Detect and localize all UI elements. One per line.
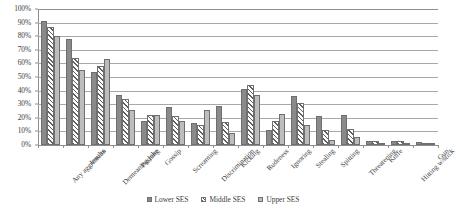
y-axis-tick-label: 90% xyxy=(18,19,31,26)
y-axis-tick-label: 10% xyxy=(18,128,31,135)
legend-label: Upper SES xyxy=(266,196,299,203)
bar-group xyxy=(391,9,411,145)
y-axis-tick-label: 40% xyxy=(18,87,31,94)
bar xyxy=(179,121,186,145)
y-axis-tick-label: 50% xyxy=(18,73,31,80)
bar xyxy=(129,110,136,145)
x-axis-category-label: Gossip xyxy=(163,148,182,167)
bar-group xyxy=(266,9,286,145)
bar xyxy=(154,115,161,145)
chart-legend: Lower SESMiddle SESUpper SES xyxy=(0,196,446,203)
bar-group xyxy=(191,9,211,145)
y-axis-tick-label: 70% xyxy=(18,46,31,53)
legend-item[interactable]: Middle SES xyxy=(201,196,245,203)
legend-swatch-icon xyxy=(201,197,206,202)
bar xyxy=(104,59,111,145)
x-axis-category-label: Rudeness xyxy=(266,148,291,173)
bar xyxy=(354,137,361,145)
bar-group xyxy=(116,9,136,145)
bar xyxy=(79,70,86,145)
legend-swatch-icon xyxy=(258,197,263,202)
y-axis-tick-label: 20% xyxy=(18,114,31,121)
x-axis-labels: Any aggressionInsultsDemeaning jokePushi… xyxy=(38,148,438,196)
bars-layer xyxy=(38,9,438,145)
bar xyxy=(229,133,236,145)
bar-group xyxy=(366,9,386,145)
bar-group xyxy=(216,9,236,145)
plot-area xyxy=(38,9,438,145)
bar xyxy=(54,36,61,145)
bar-group xyxy=(91,9,111,145)
bar xyxy=(254,95,261,145)
bar-group xyxy=(166,9,186,145)
legend-swatch-icon xyxy=(147,197,152,202)
legend-label: Lower SES xyxy=(155,196,189,203)
bar-group xyxy=(416,9,436,145)
y-axis-tick-label: 80% xyxy=(18,32,31,39)
legend-label: Middle SES xyxy=(209,196,245,203)
bar-group xyxy=(316,9,336,145)
bar-group xyxy=(241,9,261,145)
bar xyxy=(204,110,211,145)
y-axis-tick-label: 100% xyxy=(14,5,31,12)
bar xyxy=(279,114,286,145)
bar-group xyxy=(66,9,86,145)
bar-group xyxy=(41,9,61,145)
x-axis-category-label: Spitting xyxy=(339,148,360,169)
y-axis-tick-label: 60% xyxy=(18,60,31,67)
bar-group xyxy=(291,9,311,145)
bar xyxy=(304,125,311,145)
y-axis-tick-label: 30% xyxy=(18,100,31,107)
x-axis-category-label: Screaming xyxy=(192,148,219,175)
x-axis-category-label: Pushing xyxy=(139,148,160,169)
y-axis-labels: 0%10%20%30%40%50%60%70%80%90%100% xyxy=(0,0,36,216)
x-axis-category-label: Stealing xyxy=(314,148,336,170)
bar-group xyxy=(341,9,361,145)
x-axis-tick xyxy=(438,145,439,148)
x-axis-category-label: Ignoring xyxy=(290,148,313,171)
bar-group xyxy=(141,9,161,145)
legend-item[interactable]: Lower SES xyxy=(147,196,189,203)
legend-item[interactable]: Upper SES xyxy=(258,196,299,203)
x-axis-category-label: Kicking xyxy=(239,148,260,169)
y-axis-tick-label: 0% xyxy=(21,141,31,148)
x-axis-category-label: Insults xyxy=(88,148,107,167)
